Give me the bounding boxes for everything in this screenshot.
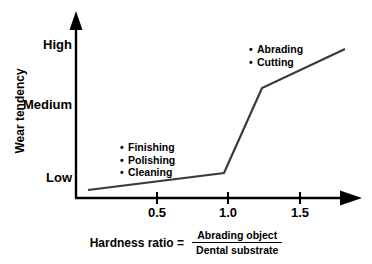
x-tick-label-2: 1.5 [280, 206, 320, 219]
x-axis-caption: Hardness ratio = Abrading object Dental … [0, 229, 372, 256]
x-axis-arrowhead [340, 191, 362, 206]
annotation-high-wear-processes: •Abrading •Cutting [249, 44, 303, 69]
bullet-icon: • [249, 57, 257, 69]
annotation-label: Polishing [128, 154, 175, 166]
x-tick-label-0: 0.5 [137, 206, 177, 219]
annotation-label: Abrading [257, 43, 303, 55]
hardness-ratio-fraction: Abrading object Dental substrate [192, 229, 282, 256]
y-tick-label-low: Low [10, 171, 72, 184]
bullet-icon: • [120, 167, 128, 179]
annotation-low-wear-processes: •Finishing •Polishing •Cleaning [120, 142, 175, 180]
annotation-item: •Cutting [249, 57, 303, 70]
bullet-icon: • [120, 155, 128, 167]
bullet-icon: • [249, 44, 257, 56]
y-tick-label-high: High [10, 38, 72, 51]
fraction-numerator: Abrading object [193, 229, 281, 242]
caption-label: Hardness ratio = [90, 236, 184, 250]
y-axis-arrowhead [70, 11, 83, 30]
y-tick-label-medium: Medium [4, 98, 72, 111]
fraction-denominator: Dental substrate [192, 243, 282, 256]
x-tick-label-1: 1.0 [208, 206, 248, 219]
annotation-label: Cleaning [128, 166, 172, 178]
annotation-label: Cutting [257, 56, 294, 68]
wear-tendency-chart: Wear tendency High Medium Low 0.5 1.0 1.… [0, 0, 372, 264]
bullet-icon: • [120, 142, 128, 154]
annotation-label: Finishing [128, 141, 175, 153]
annotation-item: •Cleaning [120, 167, 175, 180]
